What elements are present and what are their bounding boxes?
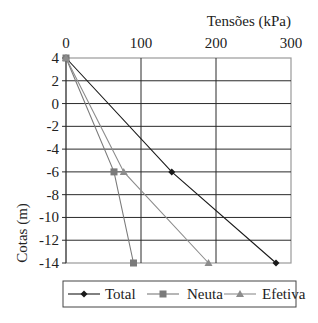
plot-frame <box>66 58 291 263</box>
y-tick-label: -12 <box>39 232 59 248</box>
y-tick-label: -10 <box>39 209 59 225</box>
y-axis-tick-labels: 420-2-4-6-8-10-12-14 <box>39 50 60 271</box>
legend: TotalNeutaEfetiva <box>63 281 306 307</box>
y-tick-label: 2 <box>52 73 60 89</box>
y-tick-label: 4 <box>52 50 60 66</box>
y-tick-label: -4 <box>47 141 60 157</box>
x-tick-label: 0 <box>62 35 70 51</box>
y-tick-label: -14 <box>39 255 59 271</box>
square-marker <box>160 291 167 298</box>
stress-depth-chart: 0100200300 420-2-4-6-8-10-12-14 Tensões … <box>0 0 318 323</box>
y-tick-label: 0 <box>52 96 60 112</box>
x-axis-title: Tensões (kPa) <box>207 13 291 30</box>
x-tick-label: 200 <box>205 35 228 51</box>
legend-label: Total <box>105 286 136 302</box>
y-tick-label: -2 <box>47 118 60 134</box>
y-tick-label: -8 <box>47 187 60 203</box>
plot-area <box>66 58 291 263</box>
x-tick-label: 300 <box>280 35 303 51</box>
legend-label: Neuta <box>187 286 223 302</box>
x-tick-label: 100 <box>130 35 153 51</box>
legend-label: Efetiva <box>262 286 306 302</box>
square-marker <box>111 168 118 175</box>
square-marker <box>130 260 137 267</box>
x-axis-tick-labels: 0100200300 <box>62 35 302 51</box>
y-axis-title: Cotas (m) <box>14 203 31 263</box>
y-tick-label: -6 <box>47 164 60 180</box>
